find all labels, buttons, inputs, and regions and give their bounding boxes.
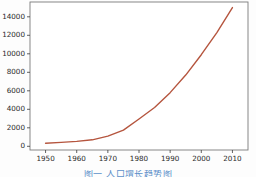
- x-tick-label: 2000: [192, 154, 211, 163]
- y-tick-label: 0: [20, 141, 25, 150]
- y-tick-label: 14000: [2, 12, 25, 21]
- x-tick-label: 2010: [223, 154, 242, 163]
- y-tick-label: 10000: [2, 49, 25, 58]
- x-tick-label: 1950: [36, 154, 55, 163]
- axes-background: [30, 2, 248, 150]
- y-tick-label: 4000: [7, 104, 26, 113]
- chart-figure: 02000400060008000100001200014000 1950196…: [0, 0, 256, 177]
- x-tick-label: 1960: [68, 154, 87, 163]
- x-tick-label: 1970: [99, 154, 118, 163]
- y-tick-label: 12000: [2, 30, 25, 39]
- x-tick-label: 1980: [130, 154, 149, 163]
- x-axis-ticks: 1950196019701980199020002010: [36, 150, 242, 163]
- y-axis-ticks: 02000400060008000100001200014000: [2, 12, 30, 151]
- line-chart-plot: 02000400060008000100001200014000 1950196…: [0, 0, 256, 177]
- y-tick-label: 6000: [7, 86, 26, 95]
- y-tick-label: 2000: [7, 123, 26, 132]
- x-tick-label: 1990: [161, 154, 180, 163]
- y-tick-label: 8000: [7, 67, 26, 76]
